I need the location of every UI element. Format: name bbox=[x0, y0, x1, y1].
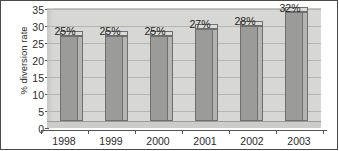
y-tick-label-25: 25 bbox=[22, 39, 44, 50]
y-tick-mark-0 bbox=[45, 128, 49, 129]
chart-figure: % diversion rate 35 30 25 20 15 10 5 0 bbox=[0, 0, 339, 151]
y-tick-label-20: 20 bbox=[22, 56, 44, 67]
x-tick-mark-3 bbox=[182, 130, 183, 134]
bar-2001-front bbox=[195, 29, 213, 121]
x-tick-label-2001: 2001 bbox=[182, 136, 228, 147]
gridline-15 bbox=[47, 77, 321, 78]
x-tick-mark-2 bbox=[135, 130, 136, 134]
x-tick-mark-6 bbox=[323, 130, 324, 134]
bar-1998-front bbox=[60, 36, 78, 121]
x-tick-label-2002: 2002 bbox=[229, 136, 275, 147]
x-tick-mark-5 bbox=[276, 130, 277, 134]
bar-value-1998: 25% bbox=[45, 26, 85, 37]
y-tick-label-35: 35 bbox=[22, 5, 44, 16]
bar-2001-side bbox=[213, 29, 218, 121]
y-tick-label-30: 30 bbox=[22, 22, 44, 33]
gridline-20 bbox=[47, 60, 321, 61]
bar-1999-front bbox=[105, 36, 123, 121]
bar-2000-side bbox=[168, 36, 173, 121]
x-tick-label-1999: 1999 bbox=[88, 136, 134, 147]
x-tick-mark-1 bbox=[88, 130, 89, 134]
gridline-5 bbox=[47, 111, 321, 112]
bar-1999-side bbox=[123, 36, 128, 121]
x-tick-label-2000: 2000 bbox=[135, 136, 181, 147]
gridline-10 bbox=[47, 94, 321, 95]
y-tick-label-10: 10 bbox=[22, 90, 44, 101]
bar-2002-front bbox=[240, 26, 258, 121]
bar-2000-front bbox=[150, 36, 168, 121]
y-tick-label-15: 15 bbox=[22, 73, 44, 84]
x-axis-line bbox=[41, 130, 327, 131]
x-tick-label-1998: 1998 bbox=[41, 136, 87, 147]
bar-value-1999: 25% bbox=[90, 26, 130, 37]
x-tick-label-2003: 2003 bbox=[276, 136, 322, 147]
bar-2002-side bbox=[258, 26, 263, 121]
bar-value-2002: 28% bbox=[225, 16, 265, 27]
bar-2003-front bbox=[285, 12, 303, 121]
bar-2003-side bbox=[303, 12, 308, 121]
bar-value-2001: 27% bbox=[180, 19, 220, 30]
y-tick-label-5: 5 bbox=[22, 107, 44, 118]
bar-value-2000: 25% bbox=[135, 26, 175, 37]
gridline-25 bbox=[47, 43, 321, 44]
y-axis-ticks: 35 30 25 20 15 10 5 0 bbox=[22, 0, 44, 151]
x-tick-mark-4 bbox=[229, 130, 230, 134]
x-tick-mark-0 bbox=[41, 130, 42, 134]
bar-1998-side bbox=[78, 36, 83, 121]
bar-value-2003: 32% bbox=[270, 3, 310, 14]
plot-floor bbox=[47, 121, 321, 128]
